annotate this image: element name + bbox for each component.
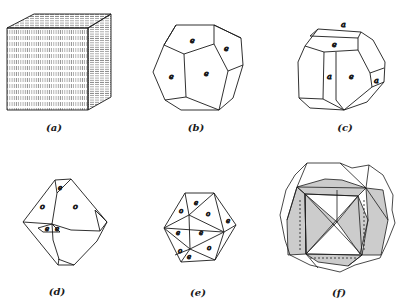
panel-c-pyritohedron-cube: a e a e a xyxy=(298,20,385,110)
caption-d: (d) xyxy=(49,286,65,297)
svg-text:o: o xyxy=(40,202,45,211)
caption-c: (c) xyxy=(337,122,353,133)
svg-text:a: a xyxy=(374,76,379,85)
svg-text:o: o xyxy=(207,244,211,252)
caption-f: (f) xyxy=(332,287,346,298)
caption-b: (b) xyxy=(188,122,204,133)
svg-text:e: e xyxy=(332,40,337,49)
svg-text:e: e xyxy=(194,199,198,207)
svg-text:a: a xyxy=(341,20,346,29)
svg-text:e: e xyxy=(190,36,195,45)
svg-text:o: o xyxy=(206,210,210,218)
panel-b-pyritohedron: e e e e xyxy=(153,25,243,110)
svg-text:e: e xyxy=(226,217,230,225)
panel-f-iron-cross-twin xyxy=(280,163,395,272)
svg-text:e: e xyxy=(55,225,59,233)
svg-text:e: e xyxy=(45,225,49,233)
svg-text:o: o xyxy=(178,247,182,255)
svg-text:o: o xyxy=(179,207,183,215)
svg-text:e: e xyxy=(199,229,203,237)
svg-text:e: e xyxy=(187,253,191,261)
panel-d-octahedron-pyritohedron: e o o e e xyxy=(23,179,107,265)
svg-text:e: e xyxy=(224,44,229,53)
svg-text:e: e xyxy=(204,69,209,78)
svg-text:o: o xyxy=(73,202,78,211)
crystal-figure: e e e e a e a e a e o o e e xyxy=(0,0,399,306)
svg-text:e: e xyxy=(349,72,354,81)
caption-a: (a) xyxy=(46,122,62,133)
panel-a-cube xyxy=(7,14,111,110)
caption-e: (e) xyxy=(190,287,206,298)
svg-text:e: e xyxy=(169,72,174,81)
svg-text:e: e xyxy=(58,184,62,192)
svg-text:e: e xyxy=(176,229,180,237)
panel-e-pyritohedron-octahedron: e o o e e e o e o xyxy=(164,193,236,262)
svg-text:a: a xyxy=(327,72,332,81)
